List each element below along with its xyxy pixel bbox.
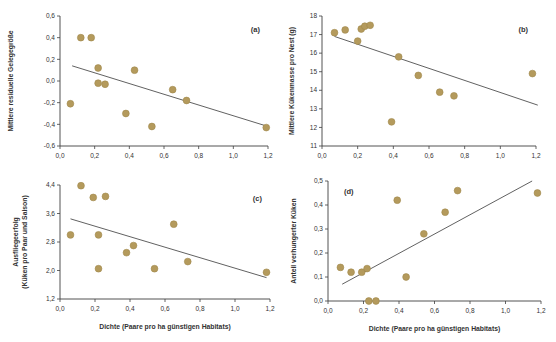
data-point xyxy=(67,231,74,238)
x-tick-label: 0,6 xyxy=(159,152,168,159)
data-point xyxy=(263,269,270,276)
x-tick-label: 0,6 xyxy=(430,307,439,314)
y-tick-label: 0,4 xyxy=(46,34,55,41)
y-tick-label: 2,8 xyxy=(46,238,55,245)
x-tick-label: 0,4 xyxy=(125,152,134,159)
y-axis-title: Mittlere residuelle Gelegegröße xyxy=(7,30,15,131)
x-tick-label: 1,0 xyxy=(230,305,239,312)
data-point xyxy=(95,80,102,87)
panel-letter: (c) xyxy=(253,194,263,203)
x-tick-label: 0,2 xyxy=(90,305,99,312)
data-point xyxy=(348,269,355,276)
data-point xyxy=(534,190,541,197)
y-tick-label: 11 xyxy=(310,142,317,149)
y-axis-title: Anteil verhungerter Küken xyxy=(290,198,298,283)
data-point xyxy=(151,265,158,272)
data-point xyxy=(148,123,155,130)
data-point xyxy=(95,265,102,272)
y-axis-title: Ausfliegeerfolg xyxy=(12,217,20,266)
x-axis-title: Dichte (Paare pro ha günstigen Habitats) xyxy=(99,323,230,331)
data-point xyxy=(529,70,536,77)
panel-letter: (a) xyxy=(251,25,261,34)
data-point xyxy=(122,110,129,117)
y-axis-title: Mittlere Kükenmasse pro Nest (g) xyxy=(288,27,296,135)
y-tick-label: 0,2 xyxy=(314,249,323,256)
data-point xyxy=(394,197,401,204)
data-point xyxy=(436,89,443,96)
y-tick-label: 12 xyxy=(310,124,318,131)
data-point xyxy=(454,187,461,194)
x-tick-label: 0,2 xyxy=(90,152,99,159)
x-tick-label: 0,8 xyxy=(460,152,469,159)
data-point xyxy=(95,65,102,72)
data-point xyxy=(395,53,402,60)
data-point xyxy=(388,118,395,125)
panel-c: 4,43,62,82,01,20,00,20,40,60,81,01,2(c)A… xyxy=(0,171,278,342)
data-point xyxy=(415,72,422,79)
x-tick-label: 1,2 xyxy=(531,152,540,159)
chart-c: 4,43,62,82,01,20,00,20,40,60,81,01,2(c)A… xyxy=(0,171,278,342)
y-tick-label: 13 xyxy=(310,105,318,112)
data-point xyxy=(403,274,410,281)
four-panel-scatter-figure: 0,60,40,20,0-0,2-0,4-0,60,00,20,40,60,81… xyxy=(0,0,556,342)
data-point xyxy=(184,258,191,265)
x-tick-label: 1,0 xyxy=(229,152,238,159)
panel-d: 0,50,40,30,20,10,00,00,20,40,60,81,01,2(… xyxy=(278,171,556,342)
data-point xyxy=(95,231,102,238)
y-tick-label: 0,4 xyxy=(314,201,323,208)
data-point xyxy=(365,298,372,305)
y-tick-label: 0,5 xyxy=(314,177,323,184)
data-point xyxy=(131,67,138,74)
data-point xyxy=(263,124,270,131)
x-tick-label: 0,8 xyxy=(195,305,204,312)
data-point xyxy=(342,27,349,34)
y-tick-label: 0,0 xyxy=(314,297,323,304)
data-point xyxy=(364,265,371,272)
data-point xyxy=(67,100,74,107)
y-tick-label: 0,6 xyxy=(46,12,55,19)
x-tick-label: 1,0 xyxy=(496,152,505,159)
panel-letter: (b) xyxy=(518,25,528,34)
panel-letter: (d) xyxy=(344,187,354,196)
trend-line xyxy=(334,36,537,105)
data-point xyxy=(373,298,380,305)
data-point xyxy=(442,209,449,216)
data-point xyxy=(90,194,97,201)
y-tick-label: 1,2 xyxy=(46,295,55,302)
data-point xyxy=(354,38,361,45)
x-tick-label: 1,2 xyxy=(265,305,274,312)
x-tick-label: 1,2 xyxy=(263,152,272,159)
y-tick-label: 0,2 xyxy=(46,56,55,63)
data-point xyxy=(367,22,374,29)
x-tick-label: 0,0 xyxy=(317,152,326,159)
data-point xyxy=(130,242,137,249)
x-tick-label: 0,8 xyxy=(465,307,474,314)
data-point xyxy=(169,86,176,93)
x-tick-label: 0,0 xyxy=(55,152,64,159)
x-tick-label: 0,0 xyxy=(323,307,332,314)
x-tick-label: 0,8 xyxy=(194,152,203,159)
y-tick-label: -0,6 xyxy=(44,142,56,149)
data-point xyxy=(331,29,338,36)
y-tick-label: 18 xyxy=(310,12,318,19)
data-point xyxy=(123,249,130,256)
y-tick-label: 16 xyxy=(310,49,318,56)
x-tick-label: 0,4 xyxy=(394,307,403,314)
data-point xyxy=(102,193,109,200)
panel-a: 0,60,40,20,0-0,2-0,4-0,60,00,20,40,60,81… xyxy=(0,0,278,171)
data-point xyxy=(77,34,84,41)
data-point xyxy=(78,182,85,189)
data-point xyxy=(170,221,177,228)
trend-line xyxy=(72,66,264,126)
y-tick-label: 17 xyxy=(310,31,318,38)
chart-a: 0,60,40,20,0-0,2-0,4-0,60,00,20,40,60,81… xyxy=(0,0,278,171)
chart-d: 0,50,40,30,20,10,00,00,20,40,60,81,01,2(… xyxy=(278,171,556,342)
y-tick-label: 15 xyxy=(310,68,318,75)
data-point xyxy=(451,92,458,99)
panel-b: 18171615141312110,00,20,40,60,81,01,2(b)… xyxy=(278,0,556,171)
x-tick-label: 0,4 xyxy=(125,305,134,312)
y-tick-label: 0,3 xyxy=(314,225,323,232)
y-tick-label: -0,2 xyxy=(44,99,56,106)
x-tick-label: 0,2 xyxy=(353,152,362,159)
x-tick-label: 0,2 xyxy=(359,307,368,314)
